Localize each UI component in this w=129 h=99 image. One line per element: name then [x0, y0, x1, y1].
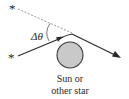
actual-star-icon: * [8, 50, 15, 65]
caption-line-2: other star [51, 85, 89, 96]
caption-line-1: Sun or [57, 73, 84, 84]
light-deflection-diagram: * * Δθ Sun or other star [0, 0, 129, 99]
apparent-star-icon: * [9, 1, 16, 16]
apparent-direction-dashed-line [18, 9, 72, 33]
ray-arrowhead-icon [56, 37, 63, 42]
svg-text:*: * [8, 50, 15, 65]
deflection-angle-arc [47, 24, 50, 42]
outgoing-arrowhead-icon [112, 51, 121, 58]
sun-body [57, 42, 83, 68]
svg-text:*: * [9, 1, 16, 16]
deflection-angle-label: Δθ [30, 30, 43, 42]
